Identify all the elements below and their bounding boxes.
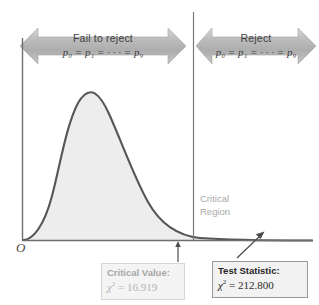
- test-statistic-pointer-arrow: [237, 232, 265, 259]
- test-statistic-expression: χ2 = 212.800: [218, 278, 302, 292]
- critical-value-number: 16.919: [127, 281, 157, 293]
- test-statistic-callout: Test Statistic: χ2 = 212.800: [212, 261, 308, 298]
- critical-region-label-line1: Critical: [200, 193, 252, 206]
- origin-label: O: [16, 240, 25, 256]
- critical-value-pointer-arrow: [175, 241, 181, 262]
- critical-value-callout: Critical Value: χ2 = 16.919: [101, 263, 185, 300]
- curve-fill-area: [23, 92, 312, 240]
- critical-value-title: Critical Value:: [107, 267, 179, 279]
- critical-value-equals: =: [115, 281, 127, 293]
- test-statistic-number: 212.800: [238, 279, 274, 291]
- chi-square-test-diagram: Fail to reject p₀ = p₁ = · · · = p₉ Reje…: [0, 0, 319, 305]
- distribution-plot: [0, 0, 319, 305]
- critical-value-expression: χ2 = 16.919: [107, 280, 179, 294]
- test-statistic-title: Test Statistic:: [218, 265, 302, 277]
- critical-region-label-line2: Region: [200, 206, 252, 219]
- test-statistic-equals: =: [226, 279, 238, 291]
- critical-region-label: Critical Region: [200, 193, 252, 219]
